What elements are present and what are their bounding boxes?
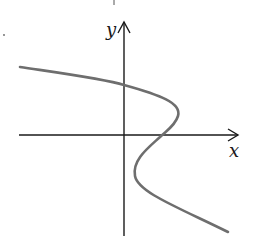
x-axis: x bbox=[19, 129, 239, 161]
function-graph: x y bbox=[0, 0, 257, 239]
y-axis-label: y bbox=[105, 19, 117, 40]
x-axis-label: x bbox=[229, 140, 239, 161]
y-axis: y bbox=[105, 19, 130, 236]
stray-dot-mark bbox=[3, 34, 5, 36]
